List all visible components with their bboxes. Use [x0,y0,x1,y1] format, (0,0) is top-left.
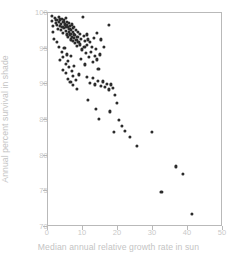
scatter-point [174,165,177,168]
scatter-point [61,31,64,34]
scatter-point [84,51,87,54]
scatter-point [109,110,112,113]
scatter-point [83,63,86,66]
scatter-point [102,46,105,49]
scatter-point [95,31,98,34]
scatter-point [99,84,102,87]
scatter-point [101,80,104,83]
scatter-point [79,37,82,40]
scatter-point [98,53,101,56]
scatter-point [150,131,153,134]
scatter-point [73,64,76,67]
plot-area [47,12,222,226]
scatter-point [105,82,108,85]
scatter-point [117,118,120,121]
scatter-point [89,50,92,53]
y-axis-title: Annual percent survival in shade [0,12,13,226]
x-axis-tick-label: 10 [78,228,87,237]
scatter-points-layer [48,13,221,225]
scatter-point [95,58,98,61]
x-axis-tick-label: 20 [113,228,122,237]
scatter-point [86,76,89,79]
scatter-point [85,33,88,36]
scatter-point [94,83,97,86]
scatter-point [81,15,84,18]
scatter-point [136,144,139,147]
scatter-point [70,69,73,72]
scatter-point [97,67,100,70]
scatter-point [98,117,101,120]
scatter-point [129,136,132,139]
scatter-point [71,83,74,86]
x-axis-tick-label: 50 [218,228,227,237]
scatter-point [95,108,98,111]
scatter-point [103,86,106,89]
scatter-point [113,93,116,96]
scatter-point [80,57,83,60]
scatter-point [88,81,91,84]
scatter-point [69,54,72,57]
scatter-point [59,58,62,61]
scatter-point [96,79,99,82]
scatter-point [182,173,185,176]
scatter-point [160,190,163,193]
scatter-point [88,40,91,43]
scatter-point [58,45,61,48]
scatter-point [72,74,75,77]
scatter-point [95,47,98,50]
scatter-point [74,78,77,81]
scatter-point [87,98,90,101]
scatter-point [112,131,115,134]
scatter-plot-figure: Annual percent survival in shade 7075808… [0,0,237,259]
scatter-point [64,62,67,65]
scatter-point [78,32,81,35]
scatter-point [115,101,118,104]
scatter-point [91,76,94,79]
scatter-point [86,44,89,47]
x-axis-title: Median annual relative growth rate in su… [0,242,237,252]
scatter-point [51,24,54,27]
scatter-point [77,73,80,76]
scatter-point [191,213,194,216]
scatter-point [100,38,103,41]
scatter-point [75,87,78,90]
scatter-point [112,86,115,89]
scatter-point [63,46,66,49]
scatter-point [67,59,70,62]
scatter-point [108,24,111,27]
scatter-point [52,30,55,33]
scatter-point [65,71,68,74]
scatter-point [60,50,63,53]
scatter-point [123,129,126,132]
scatter-point [107,88,110,91]
x-axis-tick-label: 0 [45,228,49,237]
scatter-point [120,124,123,127]
scatter-point [55,40,58,43]
scatter-point [88,56,91,59]
scatter-point [61,56,64,59]
scatter-point [92,60,95,63]
x-axis-tick-label: 30 [148,228,157,237]
x-axis-tick-label: 40 [183,228,192,237]
scatter-point [79,43,82,46]
scatter-point [91,45,94,48]
scatter-point [92,36,95,39]
